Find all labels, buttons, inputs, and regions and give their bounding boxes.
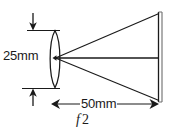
lower-ray	[56, 58, 160, 101]
fstop-value: 2	[80, 112, 89, 127]
upper-ray	[56, 14, 160, 59]
lens-diagram-figure: 25mm 50mm f2	[0, 0, 174, 133]
nodal-point-marker	[53, 55, 57, 61]
film-plane	[159, 12, 163, 102]
ray-bundle	[53, 14, 160, 101]
fstop-label: f2	[76, 113, 89, 127]
aperture-label: 25mm	[3, 49, 38, 62]
focal-distance-label: 50mm	[80, 97, 117, 110]
